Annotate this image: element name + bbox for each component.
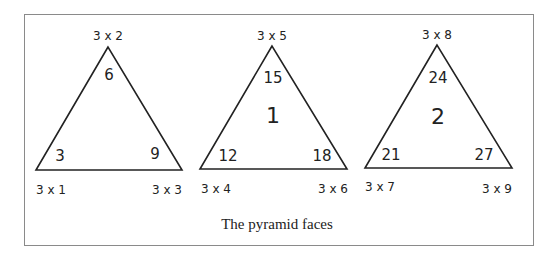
- top-vertex-label: 3 x 5: [257, 29, 287, 43]
- triangle-face-2: 3 x 8 3 x 7 3 x 9 24 21 27 2: [365, 28, 512, 196]
- top-value: 24: [428, 69, 447, 87]
- left-value: 21: [381, 146, 400, 164]
- top-value: 15: [263, 69, 282, 87]
- right-value: 27: [474, 146, 493, 164]
- left-vertex-label: 3 x 1: [36, 183, 66, 197]
- face-number: 2: [431, 104, 445, 129]
- top-value: 6: [104, 66, 114, 84]
- left-value: 12: [218, 147, 237, 165]
- right-vertex-label: 3 x 9: [482, 182, 512, 196]
- top-vertex-label: 3 x 8: [422, 28, 452, 42]
- left-vertex-label: 3 x 4: [201, 182, 231, 196]
- pyramid-faces-diagram: 3 x 2 3 x 1 3 x 3 6 3 9 3 x 5 3 x 4 3 x …: [0, 0, 555, 263]
- triangle-face-1: 3 x 5 3 x 4 3 x 6 15 12 18 1: [200, 29, 348, 196]
- top-vertex-label: 3 x 2: [93, 29, 123, 43]
- face-number: 1: [266, 103, 280, 128]
- diagram-caption: The pyramid faces: [221, 216, 333, 232]
- triangle-face-0: 3 x 2 3 x 1 3 x 3 6 3 9: [36, 29, 182, 197]
- right-value: 18: [312, 147, 331, 165]
- right-vertex-label: 3 x 6: [318, 182, 348, 196]
- left-vertex-label: 3 x 7: [365, 180, 395, 194]
- right-value: 9: [150, 145, 160, 163]
- left-value: 3: [55, 147, 65, 165]
- right-vertex-label: 3 x 3: [152, 183, 182, 197]
